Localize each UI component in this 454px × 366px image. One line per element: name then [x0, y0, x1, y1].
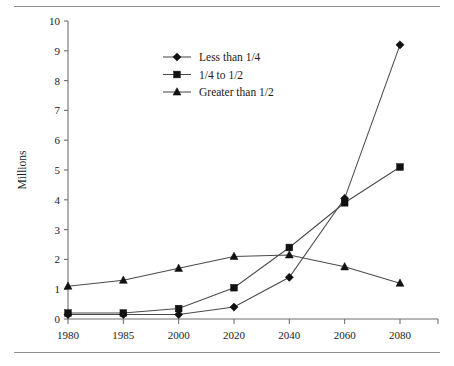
x-tick-label: 2080 [389, 329, 412, 341]
triangle-marker-icon [173, 88, 181, 95]
x-axis: 1980198520002020204020602080 [57, 319, 438, 341]
square-marker-icon [175, 305, 182, 312]
square-marker-icon [286, 244, 293, 251]
y-tick-label: 7 [55, 104, 61, 116]
square-marker-icon [231, 284, 238, 291]
square-marker-icon [341, 199, 348, 206]
y-tick-label: 10 [49, 15, 61, 27]
diamond-marker-icon [285, 273, 293, 281]
diamond-marker-icon [396, 41, 404, 49]
square-marker-icon [397, 164, 404, 171]
square-marker-icon [174, 71, 181, 78]
y-tick-label: 8 [55, 75, 61, 87]
chart-legend: Less than 1/41/4 to 1/2Greater than 1/2 [163, 51, 274, 98]
x-tick-label: 2040 [278, 329, 301, 341]
legend-entry: 1/4 to 1/2 [163, 69, 243, 81]
square-marker-icon [120, 310, 127, 317]
y-tick-label: 3 [55, 224, 61, 236]
y-tick-label: 5 [55, 164, 61, 176]
legend-label: Greater than 1/2 [199, 86, 274, 98]
series-triangle [64, 251, 404, 290]
y-axis-title-text: Millions [16, 150, 28, 190]
y-tick-label: 4 [55, 194, 61, 206]
x-tick-label: 2060 [334, 329, 357, 341]
x-tick-label: 1985 [112, 329, 135, 341]
triangle-marker-icon [230, 252, 238, 259]
y-tick-label: 2 [55, 253, 61, 265]
data-series-group [64, 41, 404, 319]
legend-entry: Less than 1/4 [163, 51, 261, 63]
series-diamond [64, 41, 404, 319]
y-tick-label: 0 [55, 313, 61, 325]
series-square [65, 164, 404, 317]
y-tick-label: 1 [55, 283, 61, 295]
chart-figure: 012345678910 198019852000202020402060208… [0, 0, 454, 366]
x-tick-label: 1980 [57, 329, 80, 341]
legend-label: Less than 1/4 [199, 51, 261, 63]
diamond-marker-icon [230, 303, 238, 311]
y-tick-label: 6 [55, 134, 61, 146]
y-axis-title: Millions [16, 150, 28, 190]
diamond-marker-icon [173, 53, 181, 61]
legend-label: 1/4 to 1/2 [199, 69, 243, 81]
x-tick-label: 2020 [223, 329, 246, 341]
line-chart-plot: 012345678910 198019852000202020402060208… [0, 0, 454, 366]
x-tick-label: 2000 [168, 329, 191, 341]
y-tick-label: 9 [55, 45, 61, 57]
triangle-marker-icon [285, 251, 293, 258]
square-marker-icon [65, 310, 72, 317]
legend-entry: Greater than 1/2 [163, 86, 274, 98]
y-axis: 012345678910 [49, 15, 68, 325]
